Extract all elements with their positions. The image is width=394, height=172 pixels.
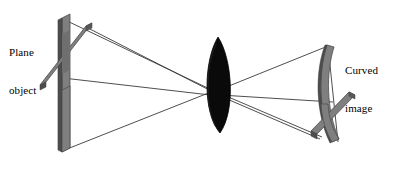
- convex-lens: [207, 37, 230, 133]
- ray-lens-to-image-bottom: [219, 93, 322, 137]
- ray-object-bar-tip-to-lens: [88, 28, 217, 94]
- plane-object-slab-left-edge: [58, 18, 62, 152]
- plane-object: [40, 14, 92, 152]
- label-plane-object-line1: Plane: [9, 46, 36, 59]
- ray-lens-to-image-bottom-2: [220, 96, 320, 139]
- label-curved-image-line2: image: [345, 102, 378, 115]
- plane-object-slab-overlay: [62, 30, 70, 74]
- plane-object-slab-overlay-lower: [62, 86, 70, 152]
- label-curved-image-line1: Curved: [345, 64, 378, 77]
- convex-lens-body: [207, 37, 230, 133]
- label-curved-image: Curved image: [345, 39, 378, 139]
- ray-object-bottom-to-lens-center: [62, 90, 216, 151]
- label-plane-object-line2: object: [9, 84, 36, 97]
- optics-diagram-canvas: [0, 0, 394, 172]
- ray-object-mid-to-lens-center: [63, 78, 219, 96]
- label-plane-object: Plane object: [9, 21, 36, 121]
- ray-lens-to-image-top: [219, 46, 328, 90]
- optics-figure: Plane object Curved image: [0, 0, 394, 172]
- ray-bundle: [62, 19, 338, 151]
